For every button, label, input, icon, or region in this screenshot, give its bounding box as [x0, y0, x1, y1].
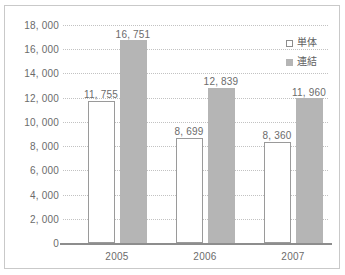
y-tick-label: 12, 000 [3, 92, 59, 103]
legend-swatch-icon-single [286, 40, 293, 47]
x-axis-baseline [60, 243, 332, 245]
bar-value-label-2007-single: 8, 360 [262, 130, 291, 141]
gridline-18000 [63, 25, 328, 26]
y-tick-label: 0 [3, 238, 59, 249]
bar-value-label-2005-single: 11, 755 [84, 89, 118, 100]
x-tick-label-2005: 2005 [105, 251, 128, 262]
legend-swatch-icon-consolidated [286, 59, 293, 66]
y-tick-label: 6, 000 [3, 165, 59, 176]
bar-2006-consolidated [208, 88, 235, 244]
bar-value-label-2005-consolidated: 16, 751 [116, 29, 151, 40]
bar-value-label-2006-consolidated: 12, 839 [204, 76, 239, 87]
bar-2005-consolidated [120, 40, 147, 243]
y-tick-label: 10, 000 [3, 116, 59, 127]
legend-item-single: 単体 [286, 36, 334, 50]
bar-2006-single [176, 138, 203, 243]
legend-item-consolidated: 連結 [286, 55, 334, 69]
y-tick-label: 14, 000 [3, 68, 59, 79]
chart-legend: 単体 連結 [286, 36, 334, 74]
x-tick-label-2007: 2007 [281, 251, 304, 262]
y-tick-label: 16, 000 [3, 44, 59, 55]
bar-2005-single [88, 101, 115, 243]
bar-value-label-2006-single: 8, 699 [174, 126, 203, 137]
y-tick-label: 2, 000 [3, 213, 59, 224]
y-tick-label: 18, 000 [3, 20, 59, 31]
bar-2007-consolidated [296, 98, 323, 243]
y-tick-label: 8, 000 [3, 141, 59, 152]
x-tick-label-2006: 2006 [193, 251, 216, 262]
y-tick-label: 4, 000 [3, 189, 59, 200]
legend-label-single: 単体 [297, 38, 317, 48]
bar-value-label-2007-consolidated: 11, 960 [292, 87, 326, 98]
bar-2007-single [264, 142, 291, 243]
y-axis-labels: 18, 000 16, 000 14, 000 12, 000 10, 000 … [0, 0, 59, 275]
legend-label-consolidated: 連結 [297, 57, 317, 67]
